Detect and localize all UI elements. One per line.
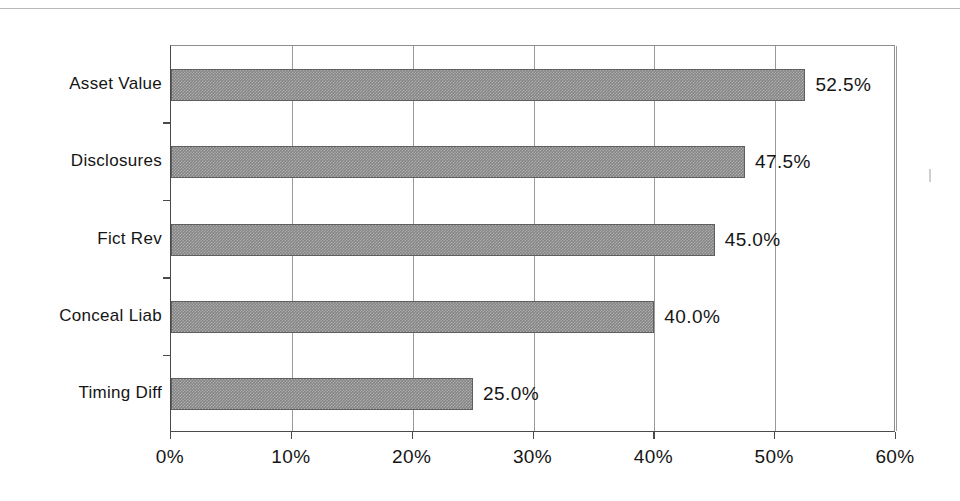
- bar[interactable]: [171, 69, 805, 101]
- x-axis-tick: [291, 432, 292, 439]
- y-axis-minor-tick: [163, 355, 171, 356]
- y-axis-minor-tick: [163, 122, 171, 123]
- x-axis-tick: [412, 432, 413, 439]
- bar-value-label: 45.0%: [725, 229, 781, 251]
- x-axis-tick-label: 50%: [755, 446, 794, 468]
- bar-row: 52.5%: [171, 69, 896, 101]
- x-axis-tick: [774, 432, 775, 439]
- bar-row: 40.0%: [171, 301, 896, 333]
- bar-value-label: 52.5%: [815, 74, 871, 96]
- bar-row: 25.0%: [171, 378, 896, 410]
- category-label: Timing Diff: [2, 383, 162, 403]
- x-axis-tick: [533, 432, 534, 439]
- x-axis-tick-label: 0%: [156, 446, 184, 468]
- bar-row: 45.0%: [171, 224, 896, 256]
- category-label: Disclosures: [2, 151, 162, 171]
- y-axis-minor-tick: [163, 277, 171, 278]
- x-axis-tick-label: 30%: [513, 446, 552, 468]
- bar-value-label: 25.0%: [483, 383, 539, 405]
- x-axis-tick: [653, 432, 654, 439]
- x-axis-tick: [170, 432, 171, 439]
- y-axis-minor-tick: [163, 200, 171, 201]
- category-label: Asset Value: [2, 74, 162, 94]
- bar[interactable]: [171, 378, 473, 410]
- bar[interactable]: [171, 301, 654, 333]
- x-axis-tick-label: 60%: [875, 446, 914, 468]
- y-axis-category-labels: Asset ValueDisclosuresFict RevConceal Li…: [0, 0, 162, 501]
- x-axis-tick: [895, 432, 896, 439]
- category-label: Conceal Liab: [2, 306, 162, 326]
- bar-chart: 52.5%47.5%45.0%40.0%25.0% Asset ValueDis…: [0, 0, 960, 501]
- category-label: Fict Rev: [2, 229, 162, 249]
- x-axis-tick-label: 40%: [634, 446, 673, 468]
- x-axis-tick-label: 20%: [392, 446, 431, 468]
- gridline-60%: [896, 46, 897, 431]
- x-axis-tick-label: 10%: [271, 446, 310, 468]
- bar-value-label: 47.5%: [755, 151, 811, 173]
- bar[interactable]: [171, 224, 715, 256]
- bar-row: 47.5%: [171, 146, 896, 178]
- bar[interactable]: [171, 146, 745, 178]
- plot-area: 52.5%47.5%45.0%40.0%25.0%: [170, 45, 895, 432]
- bar-value-label: 40.0%: [664, 306, 720, 328]
